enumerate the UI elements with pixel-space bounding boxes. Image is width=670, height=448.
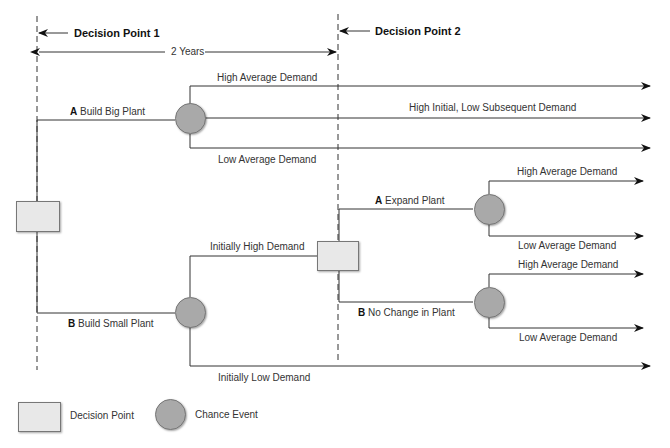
second-a-letter: A	[375, 195, 382, 206]
second-a-label: A Expand Plant	[375, 195, 445, 207]
outcome-big-mixed: High Initial, Low Subsequent Demand	[409, 102, 576, 114]
branch-a-text: Build Big Plant	[80, 106, 145, 117]
legend-decision-label: Decision Point	[70, 410, 134, 422]
outcome-expand-high: High Average Demand	[517, 166, 617, 178]
legend-chance-icon	[155, 399, 186, 430]
legend-chance-label: Chance Event	[195, 409, 258, 421]
legend-decision-icon	[18, 402, 61, 432]
outcome-nochange-low: Low Average Demand	[519, 332, 617, 344]
second-a-text: Expand Plant	[385, 195, 445, 206]
chance-node-big-plant	[175, 103, 206, 134]
chance-node-expand	[474, 194, 505, 225]
outcome-big-low: Low Average Demand	[218, 154, 316, 166]
branch-a-letter: A	[70, 106, 77, 117]
interval-label: 2 Years	[171, 46, 204, 58]
second-b-label: B No Change in Plant	[358, 307, 455, 319]
branch-b-letter: B	[68, 318, 75, 329]
outcome-big-high: High Average Demand	[217, 72, 317, 84]
decision-tree-lines	[0, 0, 670, 448]
decision-point-2-label: Decision Point 2	[375, 25, 461, 37]
second-b-text: No Change in Plant	[368, 307, 455, 318]
branch-a-label: A Build Big Plant	[70, 106, 145, 118]
outcome-expand-low: Low Average Demand	[518, 240, 616, 252]
second-b-letter: B	[358, 307, 365, 318]
decision-point-1-label: Decision Point 1	[74, 27, 160, 39]
outcome-nochange-high: High Average Demand	[518, 259, 618, 271]
branch-b-label: B Build Small Plant	[68, 318, 154, 330]
branch-b-text: Build Small Plant	[78, 318, 154, 329]
chance-node-small-plant	[175, 297, 206, 328]
chance-node-no-change	[474, 287, 505, 318]
decision-node-2	[317, 241, 359, 271]
outcome-small-initially-high: Initially High Demand	[210, 241, 305, 253]
outcome-small-initially-low: Initially Low Demand	[218, 372, 310, 384]
decision-node-1	[16, 201, 60, 232]
